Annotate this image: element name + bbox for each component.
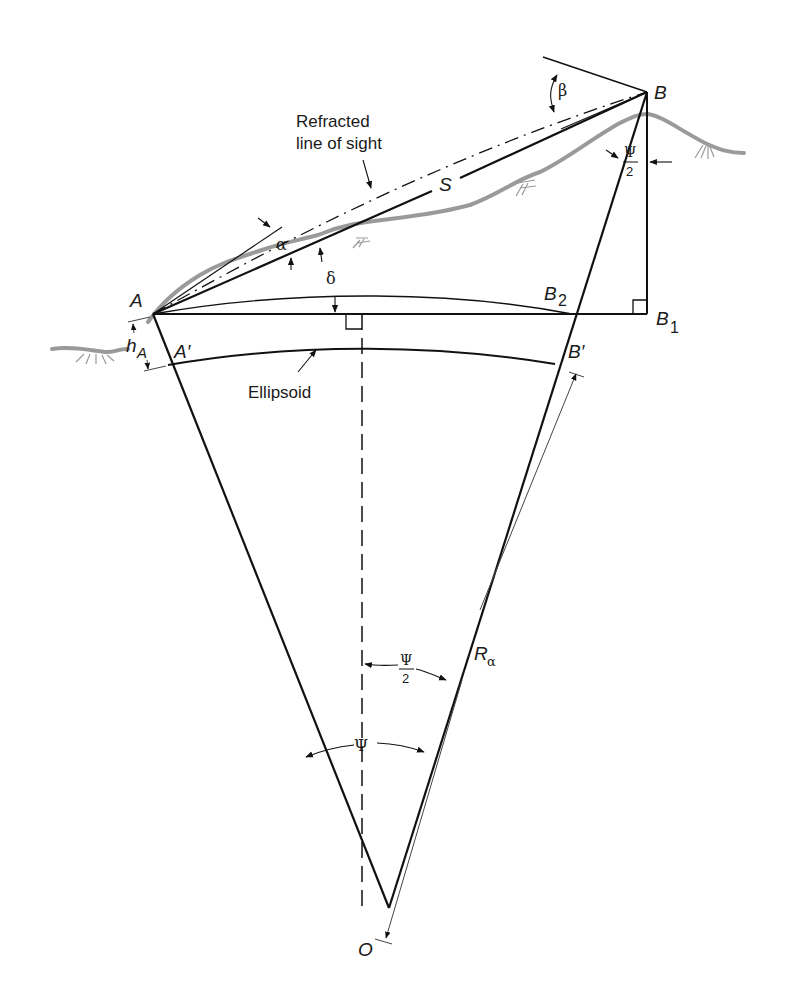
point-label-b-prime: B′ <box>568 341 586 362</box>
ellipsoid-label: Ellipsoid <box>248 383 311 402</box>
geodetic-diagram: A B B 1 B 2 A′ B′ O Refracted line of si… <box>0 0 792 1003</box>
refracted-line-label-2: line of sight <box>296 134 382 153</box>
angle-label-psi: Ψ <box>354 736 368 755</box>
angle-label-alpha: α <box>276 235 287 254</box>
psi-half-center-den: 2 <box>402 671 409 686</box>
radius-label-r: R <box>474 643 488 664</box>
terrain-hatching <box>76 145 714 364</box>
point-label-b2-sub: 2 <box>558 292 567 309</box>
refracted-line-label-1: Refracted <box>296 112 370 131</box>
point-label-b1-sub: 1 <box>670 319 679 336</box>
point-label-a: A <box>129 290 143 311</box>
chord-label-s: S <box>439 174 452 195</box>
psi-half-top-num: Ψ <box>624 144 636 160</box>
angle-label-delta: δ <box>326 269 336 288</box>
psi-half-center-num: Ψ <box>400 652 412 668</box>
point-label-b1: B <box>656 308 669 329</box>
angle-annotations <box>258 75 672 757</box>
point-label-a-prime: A′ <box>173 341 192 362</box>
psi-half-top-den: 2 <box>626 164 633 179</box>
geometry-lines <box>153 57 647 908</box>
angle-label-beta: β <box>558 81 567 100</box>
point-label-o: O <box>358 939 373 960</box>
point-label-b: B <box>654 82 667 103</box>
height-label-h: h <box>126 335 137 356</box>
terrain <box>52 114 744 352</box>
radius-label-sub: α <box>487 654 496 669</box>
height-label-sub: A <box>136 344 147 361</box>
point-label-b2: B <box>544 283 557 304</box>
